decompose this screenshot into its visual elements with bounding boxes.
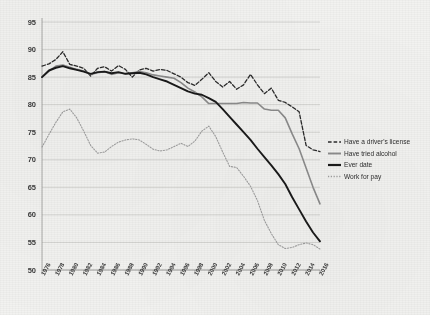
y-axis-tick-label: 85	[28, 73, 36, 82]
x-axis-tick-label: 2000	[207, 261, 219, 276]
x-axis-tick-label: 2012	[290, 261, 302, 276]
x-axis-tick-label: 1984	[96, 261, 108, 276]
x-axis-tick-label: 1992	[151, 261, 163, 276]
x-axis-tick-label: 2004	[235, 261, 247, 276]
y-axis-tick-label: 55	[28, 238, 36, 247]
x-axis-tick-label: 2010	[276, 261, 288, 276]
legend-label-0: Have a driver's license	[344, 138, 410, 145]
x-axis-tick-label: 2006	[249, 261, 261, 276]
y-axis-tick-label: 90	[28, 45, 36, 54]
x-axis-tick-label: 1980	[68, 261, 80, 276]
x-axis-tick-label: 2014	[304, 261, 316, 276]
legend-label-1: Have tried alcohol	[344, 150, 397, 157]
y-axis-tick-label: 50	[28, 266, 36, 275]
x-axis-tick-label: 1978	[54, 261, 66, 276]
y-axis-tick-label: 80	[28, 100, 36, 109]
y-axis-tick-label: 65	[28, 183, 36, 192]
x-axis-tick-label: 2016	[318, 261, 330, 276]
line-chart: 5055606570758085909519761978198019821984…	[0, 0, 430, 315]
x-axis-tick-label: 1998	[193, 261, 205, 276]
x-axis-tick-label: 1982	[82, 261, 94, 276]
legend-label-2: Ever date	[344, 161, 373, 168]
y-axis-tick-label: 75	[28, 128, 36, 137]
y-axis-tick-label: 60	[28, 210, 36, 219]
series-line-0	[42, 52, 320, 152]
chart-svg: 5055606570758085909519761978198019821984…	[0, 0, 430, 315]
x-axis-tick-label: 2002	[221, 261, 233, 276]
y-axis-tick-label: 70	[28, 155, 36, 164]
y-axis-tick-label: 95	[28, 18, 36, 27]
x-axis-tick-label: 2008	[262, 261, 274, 276]
x-axis-tick-label: 1986	[110, 261, 122, 276]
series-line-1	[42, 65, 320, 204]
series-line-3	[42, 109, 320, 249]
legend-label-3: Work for pay	[344, 173, 382, 181]
x-axis-tick-label: 1990	[137, 261, 149, 276]
x-axis-tick-label: 1988	[123, 261, 135, 276]
x-axis-tick-label: 1994	[165, 261, 177, 276]
x-axis-tick-label: 1996	[179, 261, 191, 276]
